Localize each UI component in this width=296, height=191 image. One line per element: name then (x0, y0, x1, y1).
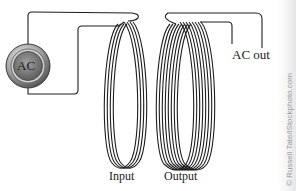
output-coil-label: Output (164, 169, 197, 184)
input-coil-label: Input (109, 169, 134, 184)
output-coil (156, 22, 214, 170)
input-coil (104, 22, 146, 168)
watermark-credit: © Russell Tate/iStockphoto.com (285, 177, 294, 186)
ac-source-label: AC (17, 58, 35, 74)
ac-out-label: AC out (232, 47, 270, 63)
diagram-drawing (0, 0, 296, 191)
transformer-diagram: AC Input Output AC out © Russell Tate/iS… (0, 0, 296, 191)
